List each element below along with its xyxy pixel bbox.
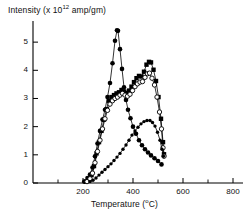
data-point-small-filled-circle — [88, 180, 91, 183]
data-point-small-filled-circle — [158, 138, 161, 141]
data-point-filled-square — [151, 68, 155, 72]
x-tick-label: 200 — [71, 187, 95, 196]
data-point-filled-circle — [131, 124, 136, 129]
data-point-filled-square — [159, 117, 163, 121]
data-point-filled-circle — [126, 107, 131, 112]
data-point-small-filled-circle — [151, 121, 154, 124]
data-point-small-filled-circle — [139, 122, 142, 125]
data-point-small-filled-circle — [153, 124, 156, 127]
data-point-small-filled-circle — [121, 147, 124, 150]
data-point-small-filled-circle — [136, 126, 139, 129]
data-point-small-filled-circle — [142, 120, 145, 123]
data-point-small-filled-circle — [103, 168, 106, 171]
x-axis-label: Temperature (oC) — [0, 198, 249, 209]
data-point-small-filled-circle — [115, 155, 118, 158]
data-point-open-circle — [159, 127, 163, 131]
data-point-small-filled-circle — [106, 165, 109, 168]
data-point-small-filled-circle — [160, 147, 163, 150]
data-point-small-filled-circle — [97, 173, 100, 176]
data-point-open-circle — [155, 95, 159, 99]
data-point-open-circle — [157, 110, 161, 114]
data-point-open-circle — [90, 171, 94, 175]
data-point-filled-circle — [137, 138, 142, 143]
data-point-filled-circle — [140, 143, 145, 148]
data-point-small-filled-circle — [124, 143, 127, 146]
y-tick-label: 2 — [16, 122, 28, 131]
data-point-small-filled-circle — [133, 129, 136, 132]
y-tick-label: 5 — [16, 37, 28, 46]
data-point-open-circle — [140, 79, 144, 83]
data-point-small-filled-circle — [162, 155, 165, 158]
data-point-filled-circle — [159, 162, 164, 167]
data-point-small-filled-circle — [109, 162, 112, 165]
data-point-filled-square — [149, 60, 153, 64]
data-point-filled-circle — [120, 67, 125, 72]
y-tick-label: 0 — [16, 178, 28, 187]
data-point-open-circle — [103, 117, 107, 121]
data-point-small-filled-circle — [130, 133, 133, 136]
x-axis-label-main: Temperature ( — [91, 199, 145, 209]
data-point-open-circle — [147, 71, 151, 75]
data-point-open-circle — [95, 149, 99, 153]
y-tick-label: 1 — [16, 150, 28, 159]
data-point-small-filled-circle — [112, 159, 115, 162]
data-point-filled-circle — [116, 29, 121, 34]
data-point-small-filled-circle — [118, 152, 121, 155]
x-tick-label: 400 — [121, 187, 145, 196]
data-point-filled-circle — [128, 116, 133, 121]
data-point-filled-circle — [108, 81, 113, 86]
data-point-small-filled-circle — [156, 131, 159, 134]
data-point-small-filled-circle — [145, 119, 148, 122]
y-tick-label: 3 — [16, 93, 28, 102]
data-point-open-circle — [100, 127, 104, 131]
data-point-open-circle — [105, 108, 109, 112]
x-tick-label: 800 — [221, 187, 245, 196]
data-point-filled-circle — [118, 47, 123, 52]
data-point-filled-circle — [156, 159, 161, 164]
data-point-filled-circle — [110, 61, 115, 66]
data-point-open-circle — [150, 76, 154, 80]
data-point-small-filled-circle — [100, 171, 103, 174]
chart-figure: Intensity (x 1012 amp/gm) Temperature (o… — [0, 0, 249, 213]
data-point-small-filled-circle — [127, 138, 130, 141]
data-point-open-circle — [93, 161, 97, 165]
data-point-open-circle — [152, 83, 156, 87]
data-point-filled-circle — [113, 38, 118, 43]
x-tick-label: 600 — [171, 187, 195, 196]
plot-area — [0, 0, 249, 213]
x-axis-label-tail: C) — [149, 199, 158, 209]
data-point-small-filled-circle — [91, 178, 94, 181]
y-tick-label: 4 — [16, 65, 28, 74]
data-point-small-filled-circle — [94, 176, 97, 179]
data-point-open-circle — [98, 138, 102, 142]
